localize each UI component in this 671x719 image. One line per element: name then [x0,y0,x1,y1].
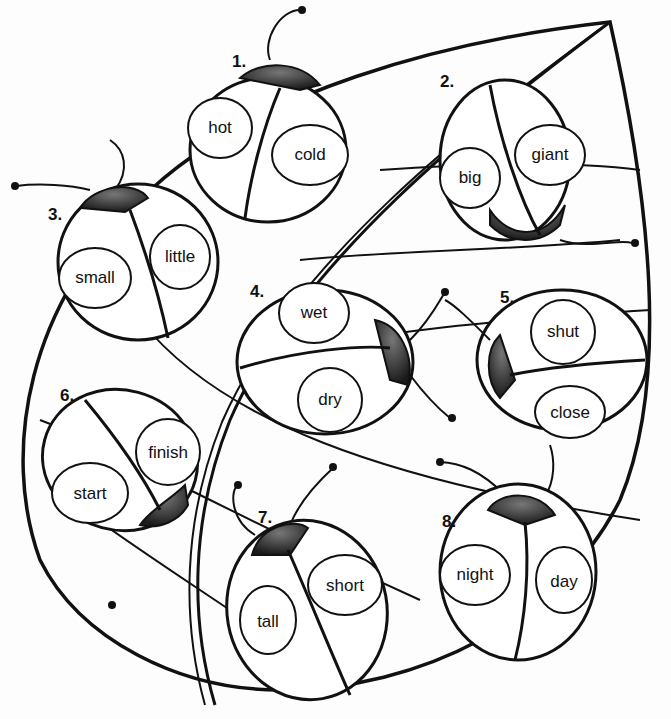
word-shut[interactable]: shut [547,322,579,342]
word-giant[interactable]: giant [532,145,569,165]
word-day[interactable]: day [550,572,577,592]
ladybug-8 [436,445,596,660]
word-big[interactable]: big [459,168,482,188]
word-short[interactable]: short [326,576,364,596]
ladybug-number-4: 4. [250,282,264,302]
leaf-illustration [0,0,671,719]
word-night[interactable]: night [457,565,494,585]
word-small[interactable]: small [75,268,115,288]
ladybug-7 [213,463,402,713]
ladybug-3 [11,140,218,340]
word-hot[interactable]: hot [208,118,232,138]
ladybug-5 [445,290,647,438]
word-little[interactable]: little [165,247,195,267]
word-tall[interactable]: tall [257,612,279,632]
word-close[interactable]: close [550,403,590,423]
ladybug-number-1: 1. [232,52,246,72]
ladybug-number-2: 2. [440,72,454,92]
word-dry[interactable]: dry [318,390,342,410]
ladybug-number-6: 6. [60,386,74,406]
ladybug-number-5: 5. [500,288,514,308]
ladybug-1 [188,6,348,222]
word-start[interactable]: start [73,484,106,504]
word-finish[interactable]: finish [148,443,188,463]
ladybug-number-7: 7. [258,508,272,528]
ladybug-6 [27,372,214,609]
ladybug-4 [237,283,456,434]
ladybug-number-8: 8. [442,512,456,532]
word-cold[interactable]: cold [294,145,325,165]
word-wet[interactable]: wet [301,303,327,323]
ladybug-number-3: 3. [48,205,62,225]
